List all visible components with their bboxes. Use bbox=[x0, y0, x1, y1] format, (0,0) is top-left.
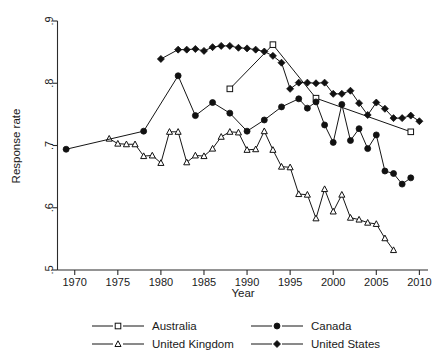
x-tick-label: 1980 bbox=[149, 276, 173, 288]
y-tick-label: .7 bbox=[43, 141, 55, 150]
legend-marker-filled-circle bbox=[274, 323, 280, 329]
data-point-marker bbox=[175, 73, 181, 79]
data-point-marker bbox=[227, 86, 233, 92]
data-point-marker bbox=[63, 146, 69, 152]
y-tick-label: .9 bbox=[43, 16, 55, 25]
data-point-marker bbox=[192, 113, 198, 119]
chart-background bbox=[0, 0, 437, 360]
data-point-marker bbox=[365, 146, 371, 152]
data-point-marker bbox=[261, 117, 267, 123]
data-point-marker bbox=[391, 171, 397, 177]
data-point-marker bbox=[399, 181, 405, 187]
data-point-marker bbox=[141, 128, 147, 134]
data-point-marker bbox=[296, 96, 302, 102]
y-tick-label: .6 bbox=[43, 203, 55, 212]
legend-label: United Kingdom bbox=[152, 338, 234, 350]
x-tick-label: 1995 bbox=[278, 276, 302, 288]
data-point-marker bbox=[339, 101, 345, 107]
x-axis-title: Year bbox=[231, 287, 254, 299]
x-tick-label: 2010 bbox=[407, 276, 431, 288]
data-point-marker bbox=[382, 168, 388, 174]
x-axis: 197019751980198519901995200020052010 bbox=[62, 270, 431, 288]
data-point-marker bbox=[270, 42, 276, 48]
x-tick-label: 2005 bbox=[364, 276, 388, 288]
legend-label: United States bbox=[311, 338, 380, 350]
y-tick-label: .8 bbox=[43, 79, 55, 88]
data-point-marker bbox=[210, 100, 216, 106]
legend-label: Canada bbox=[311, 320, 352, 332]
data-point-marker bbox=[313, 99, 319, 105]
data-point-marker bbox=[227, 110, 233, 116]
x-tick-label: 2000 bbox=[321, 276, 345, 288]
data-point-marker bbox=[356, 126, 362, 132]
response-rate-chart: .5.6.7.8.9 19701975198019851990199520002… bbox=[0, 0, 437, 360]
y-tick-label: .5 bbox=[43, 265, 55, 274]
x-tick-label: 1970 bbox=[62, 276, 86, 288]
data-point-marker bbox=[304, 105, 310, 111]
data-point-marker bbox=[330, 139, 336, 145]
data-point-marker bbox=[322, 122, 328, 128]
data-point-marker bbox=[408, 129, 414, 135]
data-point-marker bbox=[279, 104, 285, 110]
data-point-marker bbox=[244, 128, 250, 134]
legend-marker-open-square bbox=[115, 323, 121, 329]
y-axis-title: Response rate bbox=[10, 109, 22, 184]
x-tick-label: 1975 bbox=[106, 276, 130, 288]
data-point-marker bbox=[347, 138, 353, 144]
data-point-marker bbox=[408, 175, 414, 181]
x-tick-label: 1985 bbox=[192, 276, 216, 288]
data-point-marker bbox=[373, 132, 379, 138]
legend-label: Australia bbox=[152, 320, 197, 332]
